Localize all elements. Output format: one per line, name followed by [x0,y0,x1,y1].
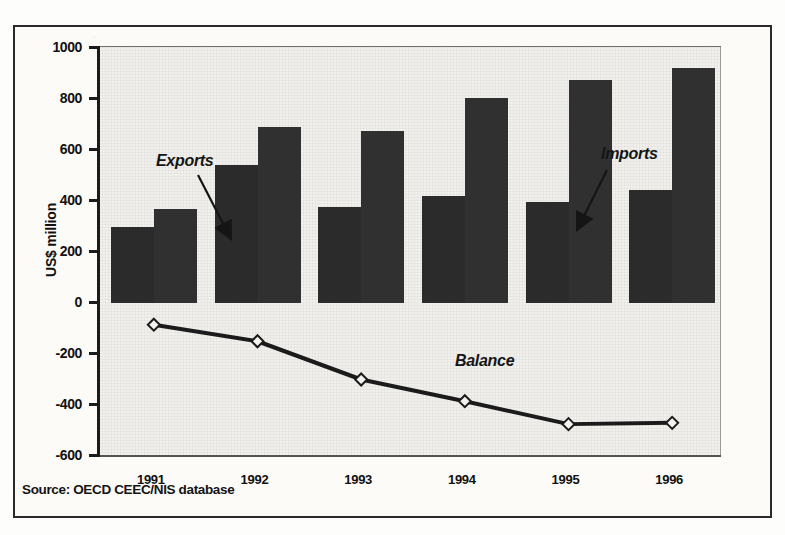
bar-imports-1994 [465,98,508,303]
bar-imports-1996 [672,68,715,303]
annotation-exports: Exports [156,152,213,170]
y-tick-label-400: 400 [60,192,82,208]
y-tick-minus600 [89,454,98,457]
x-axis-label-1993: 1993 [306,472,410,487]
y-tick-200 [89,250,98,253]
bar-exports-1992 [215,165,258,303]
x-axis-label-1996: 1996 [617,472,721,487]
y-tick-1000 [89,46,98,49]
annotation-balance: Balance [455,352,514,370]
plot-top-border [99,46,721,47]
y-tick-800 [89,97,98,100]
y-tick-label-200: 200 [60,243,82,259]
y-tick-label-800: 800 [60,90,82,106]
chart-canvas: 1000 800 600 400 200 0 -200 -400 -600 US… [0,0,785,535]
bar-exports-1995 [526,202,569,303]
y-tick-label-0: 0 [75,294,82,310]
y-tick-label-minus200: -200 [56,345,82,361]
y-axis-title: US$ million [43,180,59,300]
bar-imports-1993 [361,131,404,303]
bar-imports-1991 [154,209,197,303]
y-tick-400 [89,199,98,202]
plot-bottom-border [99,455,721,457]
y-tick-minus400 [89,403,98,406]
y-tick-label-minus400: -400 [56,396,82,412]
scanned-chart-page: 1000 800 600 400 200 0 -200 -400 -600 US… [0,0,785,535]
y-tick-label-1000: 1000 [52,39,82,55]
annotation-imports: Imports [601,145,658,163]
bar-exports-1991 [111,227,154,304]
y-tick-label-minus600: -600 [56,447,82,463]
source-note: Source: OECD CEEC/NIS database [22,482,234,497]
bar-exports-1996 [629,190,672,303]
y-tick-minus200 [89,352,98,355]
bar-imports-1995 [569,80,612,303]
y-tick-0 [89,301,98,304]
bar-exports-1993 [318,207,361,303]
x-axis-label-1994: 1994 [410,472,514,487]
y-tick-600 [89,148,98,151]
bar-exports-1994 [422,196,465,303]
x-axis-label-1995: 1995 [514,472,618,487]
bar-imports-1992 [258,127,301,303]
y-tick-label-600: 600 [60,141,82,157]
